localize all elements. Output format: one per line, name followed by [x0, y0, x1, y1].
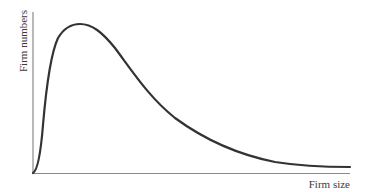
firm-size-chart: Firm numbers Firm size [0, 0, 367, 192]
x-axis-label: Firm size [309, 178, 350, 190]
distribution-curve [33, 24, 350, 173]
y-axis-label: Firm numbers [17, 10, 29, 72]
